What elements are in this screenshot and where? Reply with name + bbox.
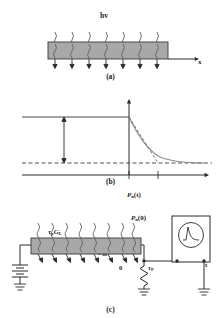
tau-g-bracket-arrow [62, 117, 66, 163]
caption-c: (c) [0, 305, 221, 314]
x-axis-label: x [198, 59, 202, 66]
scope-terminal-left [175, 259, 178, 262]
decay-curve [129, 117, 205, 163]
figure-photoconductivity-decay: hv x (a) [0, 0, 221, 318]
semiconductor-bar [48, 42, 168, 59]
x-axis [168, 57, 199, 61]
panel-c: 光照射 V (c) [0, 195, 221, 318]
semiconductor-bar-c [31, 238, 141, 254]
pn-axis [127, 99, 131, 175]
ground-symbol-resistor [138, 289, 150, 295]
circuit-wires-right [141, 245, 172, 261]
ground-symbol-scope [198, 289, 210, 295]
photon-energy-label: hv [100, 12, 108, 20]
panel-a: hv x (a) [0, 0, 221, 92]
downward-carrier-arrows [53, 59, 159, 69]
oscilloscope-trace [183, 227, 199, 240]
load-resistor [140, 263, 148, 289]
downward-carrier-arrows-c [38, 254, 138, 263]
caption-a: (a) [0, 72, 221, 81]
battery-symbol [12, 265, 28, 284]
tangent-line [129, 117, 158, 163]
incident-photon-waves-c [37, 223, 135, 238]
panel-b: Pn(t) Pn(0) τpGL Pno 0 τP t (b) [0, 92, 221, 195]
circuit-wires-left [20, 245, 31, 265]
caption-b: (b) [0, 177, 221, 186]
oscilloscope-screen [179, 223, 204, 248]
panel-c-circuit [0, 195, 221, 318]
ground-symbol-battery [14, 284, 26, 290]
circuit-node-dot [142, 259, 145, 262]
